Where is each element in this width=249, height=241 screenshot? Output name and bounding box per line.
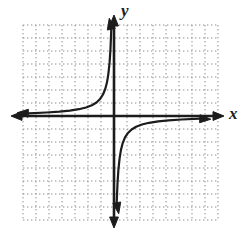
hyperbola-branch-quadrant-IV [117,119,200,203]
y-axis-label: y [119,1,129,20]
hyperbola-branch-quadrant-II [28,29,111,113]
hyperbola-graph-svg: xy [0,0,249,241]
x-axis-right-arrow-icon [213,112,224,121]
y-axis-bottom-arrow-icon [110,217,119,228]
hyperbola-figure: xy [0,0,249,241]
grid-dots [23,25,218,220]
x-axis-label: x [228,104,238,123]
